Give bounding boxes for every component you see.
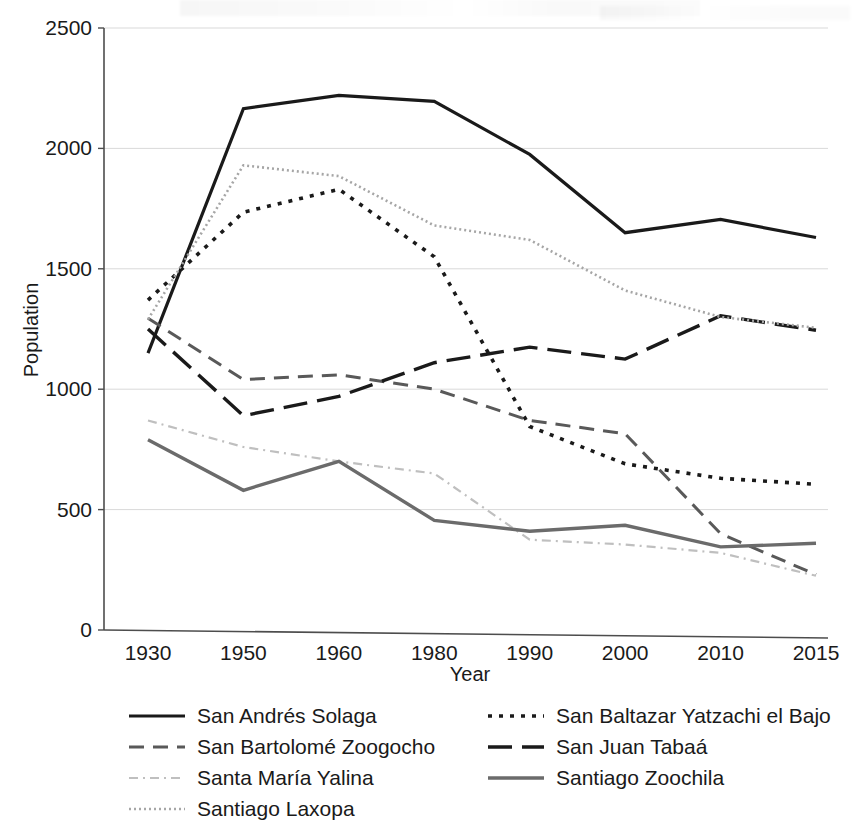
legend-item-label: San Baltazar Yatzachi el Bajo	[556, 705, 831, 726]
chart-plot-area: 05001000150020002500 1930195019601980199…	[0, 0, 854, 700]
series-line	[148, 95, 816, 353]
x-tick-label: 1990	[506, 641, 553, 664]
legend-item[interactable]: San Juan Tabaá	[487, 731, 831, 762]
x-axis-ticks-group: 19301950196019801990200020102015	[125, 641, 840, 664]
legend-item-label: Santiago Zoochila	[556, 767, 724, 788]
x-axis-line	[104, 630, 828, 638]
series-line	[148, 421, 816, 576]
y-axis-ticks-group: 05001000150020002500	[45, 16, 104, 641]
legend-item[interactable]: San Andrés Solaga	[128, 700, 435, 731]
line-solid-icon	[128, 709, 186, 723]
chart-legend: San Andrés SolagaSan Bartolomé ZoogochoS…	[0, 700, 854, 833]
line-dotted-icon	[487, 709, 545, 723]
legend-item[interactable]: Santiago Zoochila	[487, 762, 831, 793]
legend-item-label: Santiago Laxopa	[197, 798, 355, 819]
legend-column-left: San Andrés SolagaSan Bartolomé ZoogochoS…	[128, 700, 435, 824]
y-tick-label: 1500	[45, 257, 92, 280]
series-lines-group	[148, 95, 816, 575]
line-solid-gray-icon	[487, 771, 545, 785]
legend-item[interactable]: San Baltazar Yatzachi el Bajo	[487, 700, 831, 731]
x-tick-label: 1960	[315, 641, 362, 664]
series-line	[148, 318, 816, 574]
population-line-chart-figure: 05001000150020002500 1930195019601980199…	[0, 0, 854, 833]
y-axis-title: Population	[20, 283, 42, 378]
y-tick-label: 2500	[45, 16, 92, 39]
line-long-dash-icon	[487, 740, 545, 754]
line-fine-dotted-icon	[128, 802, 186, 816]
x-tick-label: 2015	[793, 641, 840, 664]
y-tick-label: 0	[80, 618, 92, 641]
x-tick-label: 1950	[220, 641, 267, 664]
legend-item[interactable]: Santiago Laxopa	[128, 793, 435, 824]
y-tick-label: 500	[57, 498, 92, 521]
y-tick-label: 2000	[45, 136, 92, 159]
legend-item[interactable]: San Bartolomé Zoogocho	[128, 731, 435, 762]
x-axis-title: Year	[450, 663, 491, 685]
x-tick-label: 1980	[411, 641, 458, 664]
x-tick-label: 2010	[697, 641, 744, 664]
y-tick-label: 1000	[45, 377, 92, 400]
series-line	[148, 189, 816, 484]
legend-item-label: Santa María Yalina	[197, 767, 374, 788]
legend-item-label: San Andrés Solaga	[197, 705, 377, 726]
series-line	[148, 316, 816, 416]
legend-item-label: San Bartolomé Zoogocho	[197, 736, 435, 757]
line-dashed-icon	[128, 740, 186, 754]
line-dash-dot-icon	[128, 771, 186, 785]
legend-item[interactable]: Santa María Yalina	[128, 762, 435, 793]
x-tick-label: 2000	[602, 641, 649, 664]
x-tick-label: 1930	[125, 641, 172, 664]
legend-column-right: San Baltazar Yatzachi el BajoSan Juan Ta…	[487, 700, 831, 793]
series-line	[148, 165, 816, 327]
legend-item-label: San Juan Tabaá	[556, 736, 707, 757]
